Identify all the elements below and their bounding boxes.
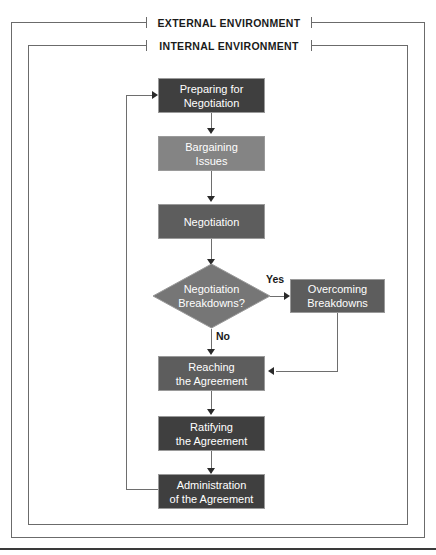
connector-bargaining-to-negotiation — [211, 171, 212, 199]
connector-overcoming-down — [337, 313, 338, 372]
node-overcoming-breakdowns[interactable]: Overcoming Breakdowns — [290, 279, 385, 313]
internal-environment-label: INTERNAL ENVIRONMENT — [152, 40, 306, 52]
node-overcoming-line2: Breakdowns — [307, 296, 368, 310]
node-bargaining-line1: Bargaining — [185, 140, 238, 154]
node-bargaining-line2: Issues — [185, 154, 238, 168]
external-frame-left-tick — [146, 17, 147, 28]
feedback-loop-vertical-segment — [126, 95, 127, 490]
node-overcoming-line1: Overcoming — [307, 282, 368, 296]
arrowhead-to-negotiation — [207, 196, 215, 202]
negotiation-process-flowchart: EXTERNAL ENVIRONMENT INTERNAL ENVIRONMEN… — [0, 0, 436, 555]
feedback-loop-top-segment — [126, 95, 154, 96]
node-bargaining-issues[interactable]: Bargaining Issues — [158, 136, 265, 171]
edge-label-no: No — [216, 330, 230, 342]
node-administration-of-the-agreement[interactable]: Administration of the Agreement — [158, 474, 265, 509]
node-ratifying-line1: Ratifying — [176, 420, 248, 434]
arrowhead-to-reaching-from-right — [268, 367, 274, 375]
feedback-loop-bottom-segment — [126, 489, 160, 490]
node-preparing-line2: Negotiation — [180, 96, 244, 110]
internal-frame-right-tick — [311, 40, 312, 51]
node-administration-line2: of the Agreement — [170, 492, 254, 506]
arrowhead-to-reaching — [207, 349, 215, 355]
node-administration-line1: Administration — [170, 478, 254, 492]
node-preparing-line1: Preparing for — [180, 82, 244, 96]
node-negotiation-line1: Negotiation — [184, 215, 240, 229]
connector-overcoming-to-reaching — [276, 371, 338, 372]
arrowhead-to-bargaining — [207, 128, 215, 134]
edge-label-yes: Yes — [266, 273, 284, 285]
node-ratifying-the-agreement[interactable]: Ratifying the Agreement — [158, 416, 265, 451]
external-environment-label: EXTERNAL ENVIRONMENT — [152, 17, 306, 29]
internal-frame-left-tick — [146, 40, 147, 51]
node-negotiation[interactable]: Negotiation — [158, 204, 265, 239]
node-reaching-line1: Reaching — [176, 360, 248, 374]
arrowhead-to-ratifying — [207, 409, 215, 415]
external-frame-right-tick — [311, 17, 312, 28]
node-preparing-for-negotiation[interactable]: Preparing for Negotiation — [158, 78, 265, 113]
node-reaching-line2: the Agreement — [176, 374, 248, 388]
node-ratifying-line2: the Agreement — [176, 434, 248, 448]
node-negotiation-breakdowns-decision[interactable]: Negotiation Breakdowns? — [152, 263, 271, 329]
page-bottom-rule — [0, 548, 436, 550]
node-reaching-the-agreement[interactable]: Reaching the Agreement — [158, 356, 265, 391]
